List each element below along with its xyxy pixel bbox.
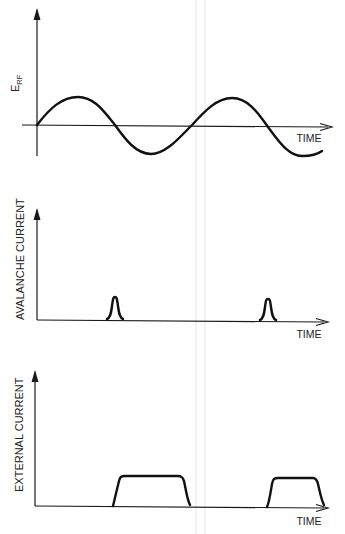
y-label-avalanche: AVALANCHE CURRENT [14, 198, 26, 320]
y-label-erf: ERF [9, 74, 24, 92]
x-axis-avalanche [37, 320, 324, 322]
x-axis-external [35, 506, 324, 508]
external-pulse-2 [267, 478, 324, 507]
panel-avalanche: AVALANCHE CURRENT TIME [14, 198, 328, 340]
y-axis-arrow-icon [34, 8, 41, 20]
x-label-time-erf: TIME [296, 132, 321, 144]
panel-external: EXTERNAL CURRENT TIME [13, 370, 328, 527]
y-axis-arrow-icon [34, 208, 41, 220]
x-label-time-external: TIME [296, 515, 321, 527]
panel-erf: ERF TIME [9, 8, 332, 156]
y-axis-arrow-icon [32, 370, 39, 382]
avalanche-pulse-1 [107, 297, 123, 319]
x-axis-erf [22, 125, 328, 127]
x-label-time-avalanche: TIME [296, 328, 321, 340]
diagram-canvas: ERF TIME AVALANCHE CURRENT TIME EXTERNAL… [0, 0, 345, 534]
avalanche-pulse-2 [260, 299, 276, 320]
y-label-external: EXTERNAL CURRENT [13, 377, 25, 492]
external-pulse-1 [113, 476, 190, 506]
